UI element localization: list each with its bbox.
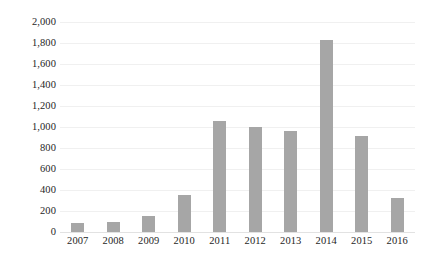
gridline xyxy=(60,64,415,65)
gridline xyxy=(60,127,415,128)
gridline xyxy=(60,106,415,107)
y-tick-label: 1,000 xyxy=(0,122,56,133)
x-axis: 2007200820092010201120122013201420152016 xyxy=(60,236,415,256)
bar xyxy=(107,222,120,233)
y-tick-label: 1,800 xyxy=(0,38,56,49)
y-tick-label: 1,200 xyxy=(0,101,56,112)
y-tick-label: 200 xyxy=(0,206,56,217)
y-tick-label: 0 xyxy=(0,227,56,238)
gridline xyxy=(60,22,415,23)
x-tick-label: 2016 xyxy=(376,236,418,247)
gridline xyxy=(60,85,415,86)
y-tick-label: 2,000 xyxy=(0,17,56,28)
y-tick-label: 600 xyxy=(0,164,56,175)
bar xyxy=(142,216,155,232)
bar xyxy=(355,136,368,232)
bar xyxy=(249,127,262,232)
bar xyxy=(320,40,333,232)
gridline xyxy=(60,43,415,44)
bar xyxy=(213,121,226,232)
bar-chart: 02004006008001,0001,2001,4001,6001,8002,… xyxy=(0,0,428,260)
bar xyxy=(284,131,297,232)
y-tick-label: 800 xyxy=(0,143,56,154)
axis-baseline xyxy=(60,232,415,233)
plot-area xyxy=(60,22,415,232)
y-tick-label: 1,400 xyxy=(0,80,56,91)
y-tick-label: 1,600 xyxy=(0,59,56,70)
bar xyxy=(178,195,191,232)
y-axis: 02004006008001,0001,2001,4001,6001,8002,… xyxy=(0,0,56,260)
y-tick-label: 400 xyxy=(0,185,56,196)
bar xyxy=(71,223,84,232)
bar xyxy=(391,198,404,232)
